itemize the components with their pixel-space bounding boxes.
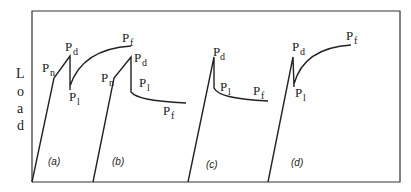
svg-text:(d): (d) xyxy=(291,157,303,168)
svg-text:P: P xyxy=(65,39,72,54)
plot-frame xyxy=(32,11,400,182)
svg-text:a: a xyxy=(17,101,24,116)
svg-text:P: P xyxy=(253,83,260,98)
svg-text:l: l xyxy=(77,96,80,107)
svg-text:l: l xyxy=(303,92,306,103)
svg-text:d: d xyxy=(220,51,225,62)
svg-text:n: n xyxy=(109,77,114,88)
svg-text:P: P xyxy=(295,85,302,100)
svg-text:n: n xyxy=(50,67,55,78)
svg-text:L: L xyxy=(16,66,25,81)
svg-text:P: P xyxy=(220,79,227,94)
svg-text:d: d xyxy=(300,46,305,57)
curve-c: Pd Pl Pf (c) xyxy=(188,44,268,182)
svg-text:f: f xyxy=(130,37,134,48)
svg-text:P: P xyxy=(101,70,108,85)
load-displacement-diagram: L o a d Pn Pd Pl Pf (a) Pn Pd Pl Pf (b) … xyxy=(0,0,411,192)
svg-text:o: o xyxy=(17,84,24,99)
svg-text:(c): (c) xyxy=(206,159,218,170)
svg-text:d: d xyxy=(17,118,24,133)
svg-text:l: l xyxy=(147,82,150,93)
y-axis-label: L o a d xyxy=(16,66,25,133)
svg-text:P: P xyxy=(69,89,76,104)
svg-text:d: d xyxy=(73,46,78,57)
svg-text:f: f xyxy=(171,110,175,121)
svg-text:P: P xyxy=(346,28,353,43)
svg-text:P: P xyxy=(292,39,299,54)
svg-text:l: l xyxy=(228,86,231,97)
svg-text:P: P xyxy=(134,50,141,65)
curve-b: Pn Pd Pl Pf (b) xyxy=(93,50,186,182)
curve-d: Pd Pl Pf (d) xyxy=(268,28,358,182)
svg-text:f: f xyxy=(354,35,358,46)
svg-text:P: P xyxy=(139,75,146,90)
svg-text:(a): (a) xyxy=(48,156,60,167)
svg-text:P: P xyxy=(42,60,49,75)
svg-text:f: f xyxy=(261,90,265,101)
svg-text:(b): (b) xyxy=(112,156,124,167)
svg-text:d: d xyxy=(142,57,147,68)
svg-text:P: P xyxy=(163,103,170,118)
svg-text:P: P xyxy=(122,30,129,45)
